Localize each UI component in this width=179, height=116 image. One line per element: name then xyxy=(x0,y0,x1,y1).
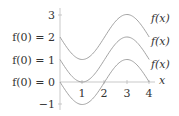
curve-label-mid: f(x) xyxy=(150,35,170,48)
plot-area: 3 f(0) = 2 f(0) = 1 f(0) = 0 −1 1 2 3 4 … xyxy=(0,0,179,116)
x-tick-4: 4 xyxy=(146,87,153,100)
x-tick-1: 1 xyxy=(79,87,86,100)
chart: 3 f(0) = 2 f(0) = 1 f(0) = 0 −1 1 2 3 4 … xyxy=(0,0,179,116)
y-tick-3: 3 xyxy=(48,9,55,22)
x-axis-label: x xyxy=(159,74,166,87)
y-tick-1: f(0) = 1 xyxy=(12,54,55,67)
curve-0 xyxy=(60,15,149,60)
curve-1 xyxy=(60,37,149,82)
y-tick-2: f(0) = 2 xyxy=(12,31,55,44)
y-tick-0: f(0) = 0 xyxy=(12,76,55,89)
x-tick-2: 2 xyxy=(101,87,108,100)
curve-label-top: f(x) xyxy=(150,12,170,25)
y-tick-minus1: −1 xyxy=(39,98,55,111)
x-tick-3: 3 xyxy=(124,87,131,100)
curve-label-bottom: f(x) xyxy=(150,58,170,71)
